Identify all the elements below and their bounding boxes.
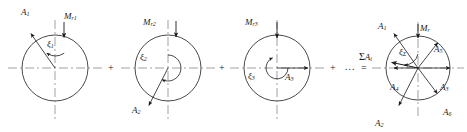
reference-label-3: Mr3 <box>245 18 258 27</box>
equals-operator: = <box>361 63 367 73</box>
resultant-circle <box>372 22 464 118</box>
sum-vector-label-1: A1 <box>378 22 387 31</box>
angle-arc-1 <box>47 53 64 56</box>
ellipsis-operator: ... <box>345 62 356 72</box>
harmonic-circle-3 <box>230 20 324 120</box>
plus-operator-3: + <box>330 63 336 73</box>
sum-vector-label-3: A3 <box>440 83 449 92</box>
reference-label-2: Mr2 <box>143 18 156 27</box>
amplitude-label-2: A2 <box>132 106 141 115</box>
angle-label-1: ξ1 <box>47 40 54 49</box>
phasor-decomposition-figure: A1 Mr1 ξ1 Mr2 ξ2 A2 Mr3 ξ3 A3 + + + ... … <box>0 0 467 132</box>
sum-vector-6 <box>418 68 437 94</box>
plus-operator-2: + <box>219 63 225 73</box>
amplitude-label-3: A3 <box>285 73 294 82</box>
sum-vector-label-6: A6 <box>443 108 452 117</box>
sum-amplitude-label: ΣAi <box>359 52 372 62</box>
sum-vector-label-2: A2 <box>375 119 384 128</box>
sum-vector-label-5: A5 <box>434 45 443 54</box>
reference-label-sum: Mr <box>420 24 430 33</box>
sum-vector-label-4: A4 <box>390 83 399 92</box>
harmonic-circle-1 <box>8 20 102 120</box>
reference-label-1: Mr1 <box>64 12 77 21</box>
plus-operator-1: + <box>108 63 114 73</box>
amplitude-vector-1 <box>31 34 55 68</box>
angle-label-3: ξ3 <box>248 72 255 81</box>
amplitude-label-1: A1 <box>21 8 30 17</box>
angle-label-2: ξ2 <box>140 53 147 62</box>
sum-angle-label: ξΣ <box>399 48 406 57</box>
